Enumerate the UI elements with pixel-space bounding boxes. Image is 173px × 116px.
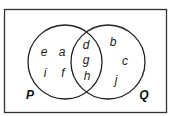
set-label-p: P: [26, 89, 34, 101]
element-j: j: [115, 74, 118, 86]
element-f: f: [61, 67, 64, 79]
set-label-q: Q: [139, 89, 148, 101]
element-d: d: [83, 39, 90, 51]
set-p-circle: [28, 25, 102, 99]
element-b: b: [110, 36, 117, 48]
element-g: g: [83, 54, 90, 66]
element-a: a: [59, 46, 66, 58]
element-c: c: [122, 55, 128, 67]
element-i: i: [44, 67, 47, 79]
element-h: h: [84, 70, 91, 82]
element-e: e: [41, 46, 48, 58]
